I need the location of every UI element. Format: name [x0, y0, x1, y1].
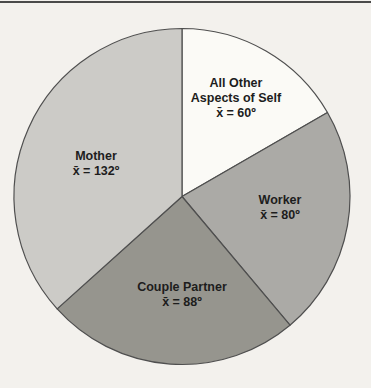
pie-chart	[0, 0, 371, 388]
scanned-page: All OtherAspects of Selfx̄ = 60ºWorkerx̄…	[0, 0, 371, 388]
